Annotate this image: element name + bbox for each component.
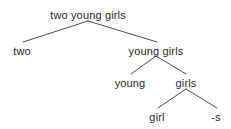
- tree-edge-group: [23, 21, 217, 108]
- tree-node-young-girls: young girls: [129, 46, 184, 57]
- tree-node-root: two young girls: [50, 10, 126, 21]
- tree-edge-girls-girl: [158, 89, 186, 108]
- tree-edge-girls-suffix: [186, 89, 217, 108]
- syntax-tree-figure: two young girlstwoyoung girlsyounggirlsg…: [0, 0, 231, 129]
- tree-edge-root-two: [23, 21, 88, 42]
- tree-edge-root-young-girls: [88, 21, 157, 42]
- tree-edge-yg-girls: [156, 56, 186, 74]
- tree-node-two: two: [13, 46, 31, 57]
- tree-edge-yg-young: [131, 56, 156, 74]
- tree-node-young: young: [115, 78, 146, 89]
- tree-node-girl: girl: [149, 112, 164, 123]
- tree-node-girls: girls: [176, 78, 197, 89]
- tree-node-suffix-s: -s: [211, 112, 220, 123]
